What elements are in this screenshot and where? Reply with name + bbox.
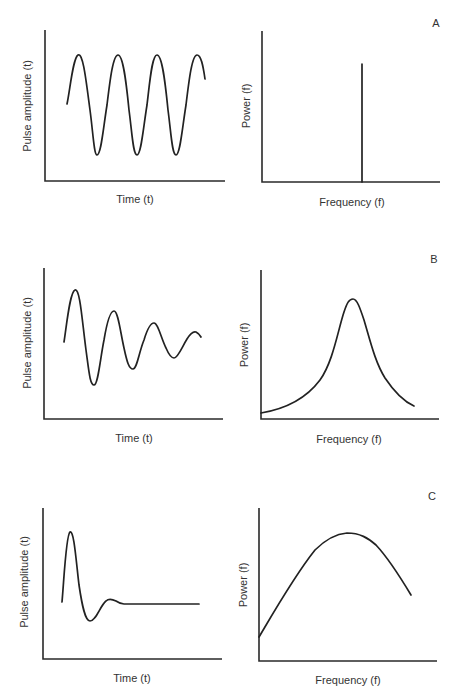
y-axis-label: Pulse amplitude (t): [18, 536, 30, 628]
panel-letter-a: A: [432, 17, 440, 29]
x-axis-label: Time (t): [116, 193, 153, 205]
panel-b-frequency-plot: Power (f) Frequency (f): [238, 270, 439, 445]
y-axis-label: Pulse amplitude (t): [21, 297, 33, 389]
y-axis-label: Power (f): [238, 323, 250, 368]
x-axis-label: Frequency (f): [316, 433, 381, 445]
heavily-damped-pulse-curve: [62, 532, 199, 621]
y-axis-label: Pulse amplitude (t): [21, 60, 33, 152]
panel-a: Pulse amplitude (t) Time (t) Power (f) F…: [21, 17, 440, 208]
y-axis-label: Power (f): [237, 563, 249, 608]
panel-letter-b: B: [430, 253, 437, 265]
x-axis-label: Frequency (f): [319, 196, 384, 208]
x-axis-label: Frequency (f): [315, 674, 380, 686]
y-axis: [259, 508, 437, 661]
x-axis-label: Time (t): [115, 432, 152, 444]
panel-c: Pulse amplitude (t) Time (t) Power (f) F…: [18, 490, 437, 686]
panel-a-frequency-plot: Power (f) Frequency (f): [240, 31, 440, 208]
panel-b: Pulse amplitude (t) Time (t) Power (f) F…: [21, 253, 439, 445]
y-axis: [43, 508, 222, 659]
broad-spectrum-curve: [259, 533, 411, 637]
undamped-oscillation-curve: [67, 55, 205, 155]
damped-oscillation-curve: [64, 290, 201, 385]
panel-letter-c: C: [428, 490, 436, 502]
panel-a-time-plot: Pulse amplitude (t) Time (t): [21, 30, 225, 205]
y-axis: [45, 30, 225, 181]
y-axis: [44, 268, 223, 419]
panel-c-frequency-plot: Power (f) Frequency (f): [237, 508, 437, 686]
panel-c-time-plot: Pulse amplitude (t) Time (t): [18, 508, 222, 684]
y-axis: [262, 31, 440, 182]
x-axis-label: Time (t): [113, 672, 150, 684]
figure: Pulse amplitude (t) Time (t) Power (f) F…: [0, 0, 459, 700]
y-axis-label: Power (f): [240, 84, 252, 129]
resonance-peak-curve: [261, 299, 414, 413]
panel-b-time-plot: Pulse amplitude (t) Time (t): [21, 268, 223, 444]
y-axis: [261, 270, 439, 419]
